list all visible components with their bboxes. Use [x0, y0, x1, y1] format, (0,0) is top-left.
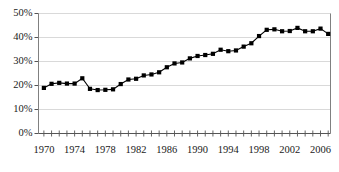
data-point-marker [65, 81, 69, 85]
data-point-marker [172, 61, 176, 65]
y-axis-tick-label: 40% [13, 31, 32, 42]
data-point-marker [88, 87, 92, 91]
y-axis-tick-label: 0% [19, 127, 33, 138]
data-point-marker [149, 72, 153, 76]
x-axis-tick-label: 2006 [301, 144, 339, 155]
data-point-marker [311, 29, 315, 33]
data-point-marker [57, 81, 61, 85]
data-point-marker [280, 29, 284, 33]
data-point-marker [111, 87, 115, 91]
data-point-marker [195, 54, 199, 58]
data-point-marker [188, 56, 192, 60]
y-axis-tick-label: 10% [13, 103, 32, 114]
y-axis-tick-label: 50% [13, 7, 32, 18]
data-point-marker [96, 88, 100, 92]
data-point-marker [134, 77, 138, 81]
data-point-marker [326, 32, 330, 36]
chart-container: 0%10%20%30%40%50% 1970197419781982198619… [0, 0, 339, 172]
data-point-marker [242, 45, 246, 49]
data-point-marker [226, 49, 230, 53]
data-point-marker [126, 77, 130, 81]
y-axis-tick-label: 20% [13, 79, 32, 90]
data-point-marker [295, 26, 299, 30]
data-point-marker [272, 27, 276, 31]
data-point-marker [73, 81, 77, 85]
data-point-marker [157, 70, 161, 74]
data-point-marker [234, 48, 238, 52]
data-point-marker [49, 82, 53, 86]
data-point-marker [42, 86, 46, 90]
data-point-marker [303, 29, 307, 33]
data-point-marker [257, 34, 261, 38]
data-point-marker [211, 52, 215, 56]
data-point-marker [203, 53, 207, 57]
data-point-marker [119, 82, 123, 86]
data-point-marker [219, 48, 223, 52]
data-point-marker [80, 76, 84, 80]
data-point-marker [142, 73, 146, 77]
y-axis-ticks [35, 14, 39, 134]
data-point-marker [103, 88, 107, 92]
data-point-marker [288, 29, 292, 33]
data-point-marker [180, 60, 184, 64]
data-point-marker [265, 28, 269, 32]
y-axis-tick-label: 30% [13, 55, 32, 66]
data-point-marker [249, 41, 253, 45]
data-point-marker [165, 65, 169, 69]
data-point-marker [318, 27, 322, 31]
